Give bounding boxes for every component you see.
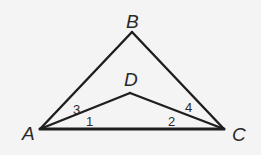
angle-label-3: 3 — [73, 103, 80, 116]
vertex-label-a: A — [22, 124, 35, 143]
angle-label-4: 4 — [185, 101, 192, 114]
angle-label-1: 1 — [86, 115, 93, 128]
geometry-diagram: B D A C 3 1 2 4 — [0, 0, 261, 155]
vertex-label-c: C — [232, 125, 246, 144]
segment-dc — [130, 93, 224, 129]
angle-label-2: 2 — [168, 115, 175, 128]
segment-bc — [132, 32, 224, 129]
segment-ad — [40, 93, 130, 129]
vertex-label-b: B — [126, 12, 139, 31]
vertex-label-d: D — [124, 70, 138, 89]
